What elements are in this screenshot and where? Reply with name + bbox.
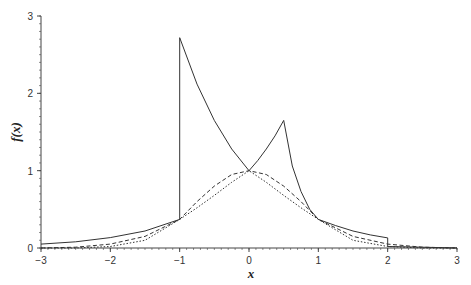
x-tick-label: −1 [174,255,186,266]
x-axis-label: x [247,266,255,281]
series-dashed [41,171,457,248]
y-axis-label: f(x) [8,122,23,142]
y-tick-label: 3 [27,11,33,22]
series-solid [41,38,457,248]
x-tick-label: 3 [454,255,460,266]
series-layer [41,38,457,248]
x-tick-label: 2 [385,255,391,266]
series-dotted [41,171,457,248]
y-tick-label: 2 [27,88,33,99]
x-tick-label: −3 [35,255,47,266]
x-tick-label: 0 [246,255,252,266]
y-tick-label: 1 [27,166,33,177]
chart: −3−2−101230123xf(x) [0,0,471,285]
x-tick-label: 1 [316,255,322,266]
axes [37,16,457,252]
y-tick-label: 0 [27,243,33,254]
x-tick-label: −2 [105,255,117,266]
labels: −3−2−101230123xf(x) [8,11,460,281]
